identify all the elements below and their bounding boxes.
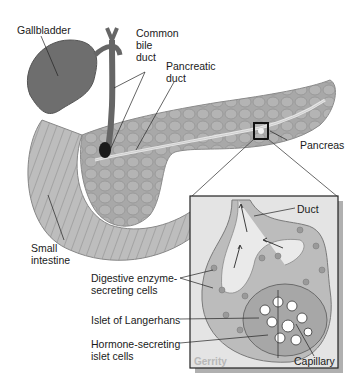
label-line: secreting cells (91, 284, 177, 296)
label-line: islet cells (91, 350, 180, 362)
label-small-intestine: Small intestine (31, 242, 70, 266)
label-gallbladder: Gallbladder (17, 24, 71, 36)
label-line: intestine (31, 254, 70, 266)
label-duct: Duct (297, 203, 319, 215)
diagram-illustration (0, 0, 362, 389)
label-line: bile (136, 39, 179, 51)
label-islet-of-langerhans: Islet of Langerhans (91, 314, 180, 326)
label-line: Hormone-secreting (91, 338, 180, 350)
gallbladder-shape (27, 40, 120, 114)
label-digestive-enzyme-secreting-cells: Digestive enzyme- secreting cells (91, 272, 177, 296)
label-line: Common (136, 27, 179, 39)
label-hormone-secreting-islet-cells: Hormone-secreting islet cells (91, 338, 180, 362)
pancreas-diagram: Gallbladder Common bile duct Pancreatic … (0, 0, 362, 389)
label-pancreas: Pancreas (300, 139, 344, 151)
label-capillary: Capillary (294, 355, 335, 367)
label-common-bile-duct: Common bile duct (136, 27, 179, 63)
label-line: Digestive enzyme- (91, 272, 177, 284)
label-pancreatic-duct: Pancreatic duct (166, 60, 216, 84)
label-line: Pancreatic (166, 60, 216, 72)
artist-watermark: Gerrity (194, 356, 227, 367)
label-line: Small (31, 242, 70, 254)
label-line: duct (166, 72, 216, 84)
